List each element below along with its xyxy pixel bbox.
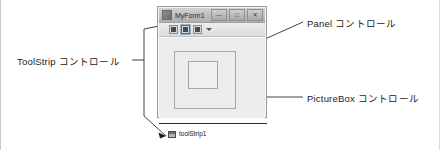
component-tray-label: toolStrip1 bbox=[179, 131, 206, 138]
toolstrip-button-1[interactable] bbox=[169, 25, 178, 34]
chevron-down-icon[interactable] bbox=[206, 28, 212, 31]
form-titlebar[interactable]: MyForm1 — □ ✕ bbox=[159, 8, 265, 23]
window-controls: — □ ✕ bbox=[211, 9, 263, 21]
figure-canvas: ToolStrip コントロール Panel コントロール PictureBox… bbox=[0, 0, 440, 150]
toolstrip-button-3-icon bbox=[195, 27, 200, 32]
close-button[interactable]: ✕ bbox=[247, 9, 263, 21]
annotation-panel: Panel コントロール bbox=[307, 16, 396, 30]
annotation-picturebox: PictureBox コントロール bbox=[307, 91, 419, 105]
maximize-button[interactable]: □ bbox=[229, 9, 245, 21]
toolstrip-control[interactable] bbox=[159, 23, 265, 37]
annotation-toolstrip: ToolStrip コントロール bbox=[17, 54, 120, 68]
toolstrip-button-2[interactable] bbox=[181, 25, 190, 34]
form-title: MyForm1 bbox=[175, 12, 205, 19]
toolstrip-button-2-icon bbox=[183, 27, 188, 32]
toolstrip-component-icon bbox=[168, 131, 176, 138]
arrowhead-tray bbox=[159, 133, 167, 139]
panel-control[interactable] bbox=[174, 51, 236, 109]
component-tray-divider bbox=[159, 123, 267, 124]
form-icon bbox=[162, 10, 172, 20]
toolstrip-button-1-icon bbox=[171, 27, 176, 32]
form-designer-window[interactable]: MyForm1 — □ ✕ bbox=[157, 6, 267, 118]
picturebox-control[interactable] bbox=[188, 61, 218, 89]
minimize-button[interactable]: — bbox=[211, 9, 227, 21]
component-tray-item[interactable]: toolStrip1 bbox=[168, 131, 206, 138]
toolstrip-button-3[interactable] bbox=[193, 25, 202, 34]
form-client-area[interactable] bbox=[159, 37, 265, 118]
